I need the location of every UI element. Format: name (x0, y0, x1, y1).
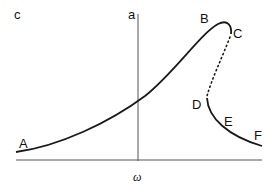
upper-branch-curve (16, 22, 231, 152)
point-label-f: F (254, 128, 262, 143)
marker-label: a (128, 7, 136, 22)
point-label-c: C (233, 26, 242, 41)
hysteresis-diagram: c a ω A B C D E F (0, 0, 276, 190)
x-axis-label: ω (133, 170, 141, 184)
point-label-b: B (200, 11, 209, 26)
point-label-d: D (192, 97, 201, 112)
vertical-axis-label: c (14, 7, 21, 22)
point-label-e: E (224, 114, 233, 129)
unstable-branch-dotted (207, 37, 230, 96)
point-label-a: A (19, 136, 28, 151)
